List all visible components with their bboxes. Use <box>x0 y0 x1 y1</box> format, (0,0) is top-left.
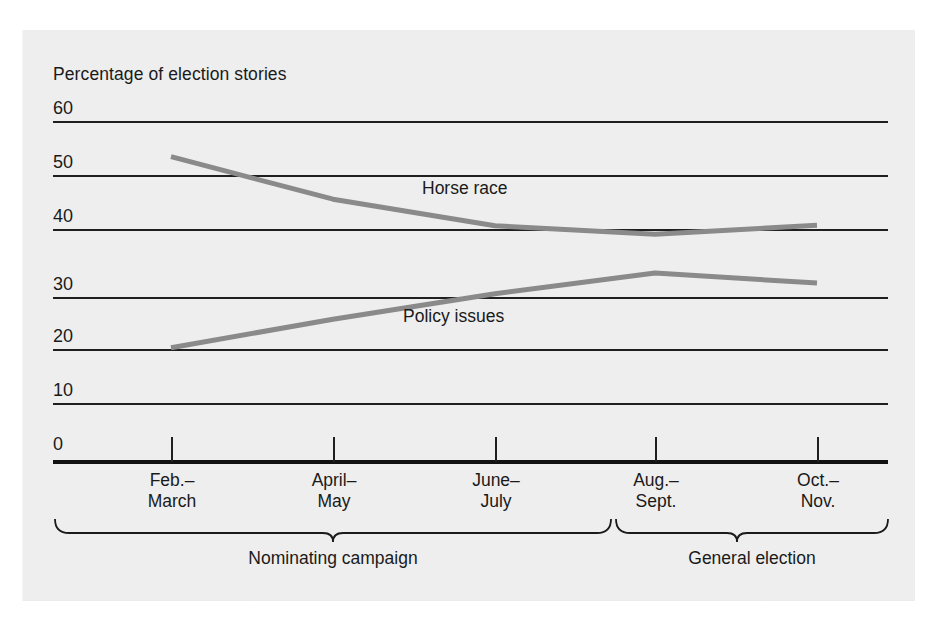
group-label-general-election: General election <box>592 548 912 569</box>
group-label-nominating-campaign: Nominating campaign <box>173 548 493 569</box>
series-label-horse-race: Horse race <box>422 178 508 199</box>
group-bracket-general-election <box>616 519 888 542</box>
series-label-policy-issues: Policy issues <box>403 306 504 327</box>
chart-figure: Percentage of election stories 60 50 40 … <box>0 0 944 623</box>
group-bracket-nominating-campaign <box>55 519 611 542</box>
